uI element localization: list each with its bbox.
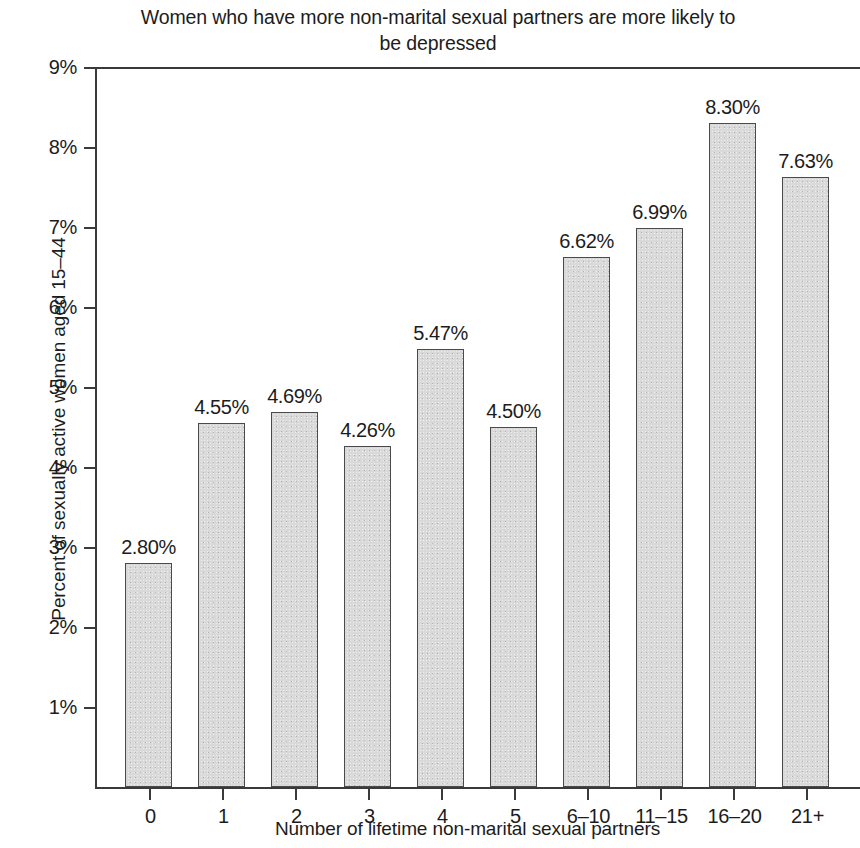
bar: 8.30% (709, 123, 756, 787)
y-tick-8pct: 8% (84, 147, 95, 149)
chart-title-line-2: be depressed (380, 32, 497, 54)
bar-value-label: 7.63% (778, 150, 833, 173)
y-tick-label: 6% (49, 296, 77, 319)
y-tick-5pct: 5% (84, 387, 95, 389)
bar-value-label: 4.55% (194, 396, 249, 419)
bar-value-label: 4.69% (267, 385, 322, 408)
bar-value-label: 6.62% (559, 230, 614, 253)
x-tick-11-15: 11–15 (660, 787, 662, 800)
y-tick-6pct: 6% (84, 307, 95, 309)
bar: 4.26% (344, 446, 391, 787)
x-tick-2: 2 (295, 787, 297, 800)
x-tick-4: 4 (441, 787, 443, 800)
y-tick-3pct: 3% (84, 547, 95, 549)
chart-title-line-1: Women who have more non-marital sexual p… (141, 6, 736, 28)
chart-title: Women who have more non-marital sexual p… (88, 4, 788, 56)
x-tick-16-20: 16–20 (733, 787, 735, 800)
x-tick-label: 16–20 (707, 805, 761, 828)
x-tick-label: 3 (364, 805, 375, 828)
bar: 6.62% (563, 257, 610, 787)
y-axis-title: Percent of sexually active women aged 15… (48, 169, 70, 689)
x-axis-line (95, 787, 860, 789)
y-tick-label: 1% (49, 696, 77, 719)
y-tick-7pct: 7% (84, 227, 95, 229)
bar-value-label: 4.26% (340, 419, 395, 442)
bar-chart-figure: Women who have more non-marital sexual p… (0, 0, 860, 848)
bar-value-label: 5.47% (413, 322, 468, 345)
bar-value-label: 2.80% (121, 536, 176, 559)
y-tick-label: 3% (49, 536, 77, 559)
x-tick-0: 0 (149, 787, 151, 800)
y-tick-label: 5% (49, 376, 77, 399)
y-tick-label: 9% (49, 56, 77, 79)
bar-value-label: 8.30% (705, 96, 760, 119)
bar-value-label: 4.50% (486, 400, 541, 423)
plot-area: 1%2%3%4%5%6%7%8%9% 0123456–1011–1516–202… (95, 67, 860, 787)
y-tick-label: 4% (49, 456, 77, 479)
x-tick-1: 1 (222, 787, 224, 800)
bar: 4.69% (271, 412, 318, 787)
plot-top-border (95, 67, 860, 69)
y-tick-2pct: 2% (84, 627, 95, 629)
y-tick-9pct: 9% (84, 67, 95, 69)
bar: 4.55% (198, 423, 245, 787)
x-tick-label: 1 (218, 805, 229, 828)
x-tick-label: 4 (437, 805, 448, 828)
x-tick-label: 0 (145, 805, 156, 828)
x-tick-21plus: 21+ (806, 787, 808, 800)
y-axis-line (95, 67, 97, 787)
x-tick-5: 5 (514, 787, 516, 800)
x-tick-label: 11–15 (635, 805, 688, 828)
x-tick-label: 2 (291, 805, 302, 828)
bar: 6.99% (636, 228, 683, 787)
y-tick-4pct: 4% (84, 467, 95, 469)
bar: 5.47% (417, 349, 464, 787)
bar: 2.80% (125, 563, 172, 787)
y-tick-label: 7% (49, 216, 77, 239)
bar: 4.50% (490, 427, 537, 787)
x-tick-label: 5 (510, 805, 521, 828)
y-tick-1pct: 1% (84, 707, 95, 709)
bar: 7.63% (782, 177, 829, 787)
x-tick-label: 6–10 (567, 805, 610, 828)
x-tick-label: 21+ (791, 805, 824, 828)
bar-value-label: 6.99% (632, 201, 687, 224)
x-tick-6-10: 6–10 (587, 787, 589, 800)
y-tick-label: 2% (49, 616, 77, 639)
y-tick-label: 8% (49, 136, 77, 159)
x-tick-3: 3 (368, 787, 370, 800)
